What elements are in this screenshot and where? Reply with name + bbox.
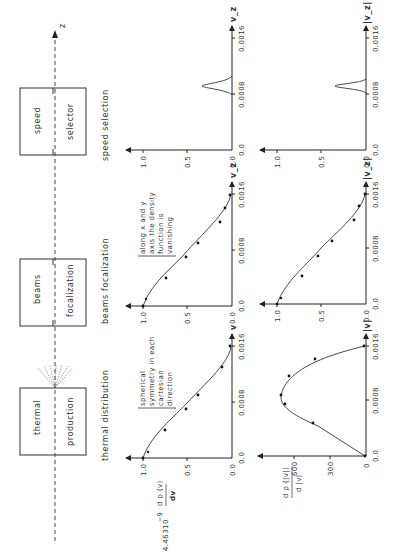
svg-text:d p (v): d p (v) — [156, 480, 164, 506]
svg-text:selector: selector — [66, 103, 75, 140]
svg-text:v_z: v_z — [229, 6, 238, 22]
svg-text:600: 600 — [291, 461, 299, 476]
figure-svg: z thermal production beams focalization … — [0, 0, 398, 556]
svg-text:0.5: 0.5 — [184, 464, 192, 476]
svg-text:4.46310: 4.46310 — [162, 519, 170, 551]
svg-text:0.0016: 0.0016 — [372, 333, 380, 360]
svg-text:0.0: 0.0 — [238, 300, 246, 312]
svg-text:focalization: focalization — [66, 264, 75, 317]
svg-text:vanishing: vanishing — [166, 217, 174, 254]
svg-text:0.5: 0.5 — [184, 312, 192, 324]
svg-text:beams: beams — [33, 274, 42, 304]
svg-text:0.0016: 0.0016 — [238, 333, 246, 360]
svg-text:spherical: spherical — [139, 371, 147, 406]
svg-text:0.0008: 0.0008 — [372, 235, 380, 262]
section-title-thermal: thermal distribution — [101, 370, 110, 461]
rotated-figure: z thermal production beams focalization … — [0, 0, 398, 556]
svg-text:300: 300 — [327, 461, 335, 476]
annotation-thermal: spherical symmetry in each cartesian dir… — [138, 336, 176, 408]
z-axis: z — [52, 23, 67, 541]
stage-box-speed: speed selector — [20, 88, 86, 155]
svg-text:thermal: thermal — [33, 400, 42, 435]
section-title-speed: speed selection — [101, 89, 110, 161]
svg-text:1.0: 1.0 — [140, 312, 148, 324]
svg-text:0: 0 — [363, 463, 371, 468]
svg-text:1.0: 1.0 — [274, 156, 282, 168]
z-axis-label: z — [58, 23, 67, 28]
svg-text:0.0: 0.0 — [363, 156, 371, 168]
svg-text:0.0: 0.0 — [372, 450, 380, 462]
svg-text:0.0016: 0.0016 — [372, 25, 380, 52]
svg-text:1.0: 1.0 — [140, 156, 148, 168]
svg-text:0.0: 0.0 — [229, 312, 237, 324]
svg-text:1.0: 1.0 — [274, 310, 282, 322]
plot-speed-upper: 1.0 0.5 0.0 0.0 0.0008 0.0016 v_z — [126, 6, 246, 168]
svg-text:0.5: 0.5 — [184, 156, 192, 168]
svg-text:speed: speed — [33, 107, 42, 134]
svg-text:0.0: 0.0 — [372, 298, 380, 310]
z-arrow-icon — [52, 30, 58, 38]
svg-text:|v_z|: |v_z| — [363, 1, 372, 24]
svg-text:d |v|: d |v| — [295, 474, 303, 492]
section-title-beams: beams focalization — [101, 238, 110, 324]
svg-text:−9: −9 — [156, 512, 164, 522]
svg-text:0.0: 0.0 — [238, 144, 246, 156]
svg-text:cartesian: cartesian — [157, 370, 165, 406]
stage-box-beams: beams focalization — [20, 259, 86, 326]
svg-text:0.0008: 0.0008 — [238, 237, 246, 264]
svg-text:0.0008: 0.0008 — [372, 387, 380, 414]
svg-text:0.0016: 0.0016 — [238, 181, 246, 208]
svg-text:0.0008: 0.0008 — [238, 389, 246, 416]
svg-text:0.0016: 0.0016 — [372, 181, 380, 208]
svg-text:0.0: 0.0 — [229, 464, 237, 476]
svg-text:v: v — [229, 324, 238, 330]
svg-text:symmetry in each: symmetry in each — [148, 336, 156, 406]
svg-text:1.0: 1.0 — [140, 464, 148, 476]
svg-text:0.5: 0.5 — [318, 310, 326, 322]
plot-thermal-lower: 600 300 0 0.0 0.0008 0.0016 |v| — [258, 319, 380, 476]
svg-text:0.0008: 0.0008 — [372, 81, 380, 108]
plot-speed-lower: 1.0 0.5 0.0 0.0 0.0008 0.0016 |v_z| — [260, 1, 380, 168]
svg-text:dv: dv — [169, 491, 177, 501]
svg-text:0.0: 0.0 — [238, 452, 246, 464]
annotation-beams: along x and y axis the density function … — [138, 192, 176, 256]
plot-beams-lower: 1.0 0.5 0.0 0.0 0.0008 0.0016 |v_z| — [260, 157, 380, 322]
svg-text:0.0: 0.0 — [372, 144, 380, 156]
svg-text:direction: direction — [166, 372, 174, 406]
svg-text:axis the density: axis the density — [148, 192, 156, 254]
svg-text:0.0: 0.0 — [363, 310, 371, 322]
svg-text:0.0008: 0.0008 — [238, 81, 246, 108]
svg-text:function is: function is — [157, 213, 165, 254]
svg-text:0.5: 0.5 — [318, 156, 326, 168]
svg-text:0.0: 0.0 — [229, 156, 237, 168]
svg-text:0.0016: 0.0016 — [238, 25, 246, 52]
svg-text:d p (|v|): d p (|v|) — [282, 467, 290, 498]
stage-box-thermal: thermal production — [20, 388, 86, 455]
ylabel-upper: 4.46310 −9 d p (v) dv — [156, 480, 177, 551]
svg-text:along x and y: along x and y — [139, 201, 147, 254]
svg-text:production: production — [66, 397, 75, 446]
